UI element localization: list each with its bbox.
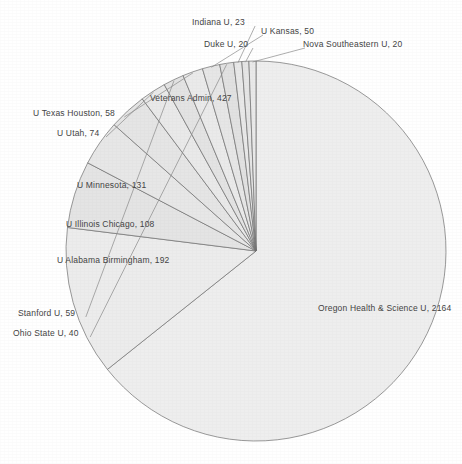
pie-slice-label: U Kansas, 50	[261, 26, 314, 36]
pie-slice-label: Oregon Health & Science U, 2164	[318, 303, 451, 313]
pie-slice-label: U Texas Houston, 58	[33, 108, 115, 118]
pie-slice-label: Stanford U, 59	[18, 308, 75, 318]
pie-slice-label: U Illinois Chicago, 108	[66, 219, 154, 229]
pie-slice-label: Duke U, 20	[204, 39, 248, 49]
pie-chart-canvas	[0, 0, 462, 464]
pie-chart: Oregon Health & Science U, 2164Veterans …	[0, 0, 462, 464]
pie-slice-label: Indiana U, 23	[192, 17, 245, 27]
pie-slice-label: Ohio State U, 40	[13, 328, 79, 338]
pie-slice-label: Veterans Admin, 427	[150, 93, 232, 103]
leader-line	[253, 48, 306, 62]
pie-slice-label: U Utah, 74	[57, 128, 99, 138]
pie-slice-label: U Alabama Birmingham, 192	[57, 255, 169, 265]
leader-line	[245, 48, 253, 62]
pie-slice-label: Nova Southeastern U, 20	[303, 39, 402, 49]
pie-slice-label: U Minnesota, 131	[77, 180, 146, 190]
pie-slices	[66, 61, 446, 441]
